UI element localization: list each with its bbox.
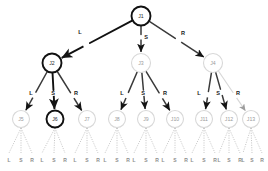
edge-j4-j13-lower	[237, 98, 246, 111]
fan-label-j10-l: L	[161, 157, 164, 163]
edge-j3-j9-upper	[142, 73, 144, 90]
edge-label-j1-s: S	[144, 34, 148, 40]
edge-label-j4-l: L	[197, 90, 201, 96]
edge-j3-j8-lower	[121, 98, 126, 110]
fan-label-j13-s: S	[250, 157, 254, 163]
node-j1-label: J1	[138, 13, 144, 19]
fan-line-j13-l	[243, 128, 251, 153]
fan-label-j7-r: R	[96, 157, 100, 163]
fan-line-j5-r	[21, 128, 32, 153]
fan-label-j12-l: L	[217, 157, 220, 163]
node-j10-label: J10	[171, 116, 179, 122]
fan-label-j8-r: R	[126, 157, 130, 163]
edge-j4-j12-upper	[216, 73, 221, 90]
fan-label-j6-r: R	[63, 157, 67, 163]
node-group: J1J2J3J4J5J6J7J8J9J10J11J12J13	[13, 7, 260, 128]
fan-label-j6-l: L	[40, 157, 43, 163]
edge-j1-j4-upper	[149, 21, 175, 38]
fan-label-j9-s: S	[144, 157, 148, 163]
node-j8-label: J8	[114, 116, 120, 122]
fan-label-j5-r: R	[30, 157, 34, 163]
fan-line-j6-l	[42, 128, 55, 153]
node-j2-label: J2	[49, 60, 55, 66]
fan-line-j12-r	[229, 128, 240, 153]
fan-line-j11-r	[204, 128, 215, 153]
fan-label-j7-l: L	[73, 157, 76, 163]
node-j7-label: J7	[84, 116, 90, 122]
fan-line-j13-r	[251, 128, 262, 153]
fan-label-group: LSRLSRLSRLSRLSRLSRLSRLSRLSR	[7, 157, 264, 163]
fan-line-j12-l	[219, 128, 229, 153]
leaf-fan-group	[9, 128, 262, 153]
edge-j1-j2-lower	[62, 46, 84, 57]
fan-label-j13-l: L	[241, 157, 244, 163]
node-j12-label: J12	[225, 116, 233, 122]
edge-label-j3-r: R	[163, 90, 167, 96]
edge-j3-j10-lower	[162, 98, 169, 110]
node-j4-label: J4	[210, 60, 216, 66]
fan-line-j7-r	[87, 128, 98, 153]
fan-label-j11-l: L	[190, 157, 193, 163]
fan-label-j9-r: R	[155, 157, 159, 163]
edge-j1-j2-upper	[90, 21, 132, 43]
edge-j4-j12-lower	[222, 95, 226, 109]
fan-line-j9-l	[134, 128, 146, 153]
fan-line-j10-r	[175, 128, 186, 153]
fan-line-j13-s	[251, 128, 252, 153]
fan-label-j5-s: S	[19, 157, 23, 163]
fan-line-j6-s	[54, 128, 55, 153]
edge-label-j2-l: L	[29, 90, 33, 96]
edge-label-j2-s: S	[51, 90, 55, 96]
fan-line-j6-r	[55, 128, 65, 153]
fan-line-j11-l	[192, 128, 204, 153]
edge-j2-j7-lower	[74, 98, 82, 110]
fan-label-j10-r: R	[184, 157, 188, 163]
diagram-canvas: J1J2J3J4J5J6J7J8J9J10J11J12J13 LSRLSRLSR…	[0, 0, 268, 171]
fan-line-j7-l	[75, 128, 87, 153]
edge-j2-j5-upper	[36, 72, 47, 92]
fan-label-j7-s: S	[85, 157, 89, 163]
decision-tree-graphic: J1J2J3J4J5J6J7J8J9J10J11J12J13 LSRLSRLSR…	[0, 0, 268, 171]
fan-label-j11-s: S	[202, 157, 206, 163]
fan-label-j13-r: R	[260, 157, 264, 163]
edge-label-j4-s: S	[216, 90, 220, 96]
edge-label-j3-l: L	[120, 90, 124, 96]
node-j3-label: J3	[138, 60, 144, 66]
edge-j2-j6-lower	[54, 96, 55, 109]
fan-label-j12-s: S	[227, 157, 231, 163]
edge-j3-j8-upper	[128, 72, 137, 92]
edge-label-j1-r: R	[181, 30, 185, 36]
edge-label-j3-s: S	[141, 90, 145, 96]
edge-j4-j11-upper	[208, 73, 211, 92]
fan-label-j5-l: L	[7, 157, 10, 163]
fan-label-j6-s: S	[52, 157, 56, 163]
edge-j2-j6-upper	[53, 73, 54, 90]
edge-j3-j9-lower	[144, 96, 145, 109]
edge-j1-j4-lower	[181, 42, 204, 57]
node-j5-label: J5	[18, 116, 24, 122]
edge-j3-j10-upper	[146, 72, 159, 93]
fan-line-j8-l	[105, 128, 117, 153]
edge-j2-j5-lower	[26, 98, 33, 111]
node-j11-label: J11	[200, 116, 208, 122]
fan-line-j8-r	[117, 128, 128, 153]
edge-j4-j11-lower	[206, 97, 208, 109]
edge-label-j1-l: L	[78, 29, 82, 35]
fan-label-j10-s: S	[173, 157, 177, 163]
edge-label-j2-r: R	[74, 90, 78, 96]
fan-label-j8-l: L	[103, 157, 106, 163]
fan-label-j9-l: L	[132, 157, 135, 163]
fan-line-j5-l	[9, 128, 21, 153]
node-j13-label: J13	[247, 116, 255, 122]
fan-line-j10-l	[163, 128, 175, 153]
node-j6-label: J6	[52, 116, 58, 122]
edge-j2-j7-upper	[57, 71, 70, 92]
fan-label-j8-s: S	[115, 157, 119, 163]
node-j9-label: J9	[143, 116, 149, 122]
fan-line-j9-r	[146, 128, 157, 153]
edge-label-j4-r: R	[236, 90, 240, 96]
